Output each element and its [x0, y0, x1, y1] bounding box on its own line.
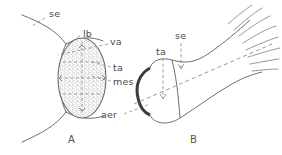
bulb-upper-contour — [150, 20, 250, 68]
panel-b-drawing — [137, 20, 262, 123]
label-mes: mes — [113, 76, 134, 87]
panel-b-axis — [134, 44, 272, 104]
label-se-b: se — [175, 30, 186, 41]
figure-canvas: se lb va ta mes aer ta se A B — [0, 0, 282, 155]
label-ta-b: ta — [156, 46, 166, 57]
panel-label-b: B — [190, 134, 197, 145]
longitudinal-axis-dashed — [134, 44, 272, 104]
leader-arrowheads — [160, 64, 184, 99]
bulb-lower-contour — [150, 72, 262, 123]
label-va: va — [110, 36, 122, 47]
bulb-inner-neck — [172, 60, 180, 118]
hatching-fibres — [228, 5, 280, 71]
se-outline-lower-left — [22, 112, 66, 142]
label-se-a: se — [49, 8, 60, 19]
diagram-svg: se lb va ta mes aer ta se A B — [0, 0, 282, 155]
label-aer: aer — [101, 109, 117, 120]
panel-label-a: A — [68, 134, 75, 145]
label-ta-a: ta — [113, 62, 123, 73]
se-outline-upper-left — [22, 15, 66, 44]
label-lb: lb — [83, 28, 92, 39]
bulb-tip-cap — [137, 68, 150, 115]
